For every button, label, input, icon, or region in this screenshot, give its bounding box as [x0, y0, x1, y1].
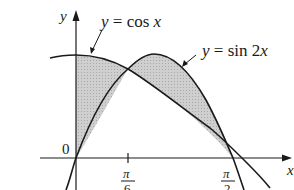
diagram-canvas: y x 0 y = cos x y = sin 2x π 6 π 2 [0, 0, 294, 190]
origin-label: 0 [62, 141, 70, 157]
sin2x-curve-label: y = sin 2x [200, 41, 268, 60]
y-axis-label: y [58, 8, 67, 24]
cos-leader-arrow-icon [90, 47, 95, 54]
cos-leader-line [92, 30, 102, 51]
svg-text:π: π [223, 166, 230, 181]
x-axis-label: x [286, 162, 294, 178]
tick-label-pi-over-2: π 2 [221, 166, 235, 190]
svg-text:π: π [123, 166, 130, 181]
cos-curve-label: y = cos x [99, 12, 162, 31]
tick-label-pi-over-6: π 6 [121, 166, 135, 190]
sin2x-leader-arrow-icon [182, 60, 188, 67]
shaded-region-left [76, 55, 128, 158]
svg-text:2: 2 [224, 181, 231, 190]
y-axis-arrow-icon [73, 10, 80, 21]
svg-text:6: 6 [124, 181, 131, 190]
x-axis-arrow-icon [282, 155, 292, 162]
